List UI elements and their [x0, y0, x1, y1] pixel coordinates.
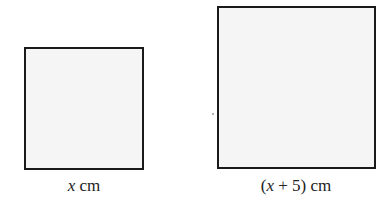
small-square-label: x cm	[68, 176, 101, 196]
variable-x: x	[68, 176, 76, 195]
unit-text: cm	[75, 176, 100, 195]
stray-dot	[212, 113, 214, 115]
small-square	[24, 47, 144, 170]
large-square	[217, 6, 376, 169]
expression-rest: + 5) cm	[274, 176, 331, 195]
large-square-label: (x + 5) cm	[261, 176, 332, 196]
